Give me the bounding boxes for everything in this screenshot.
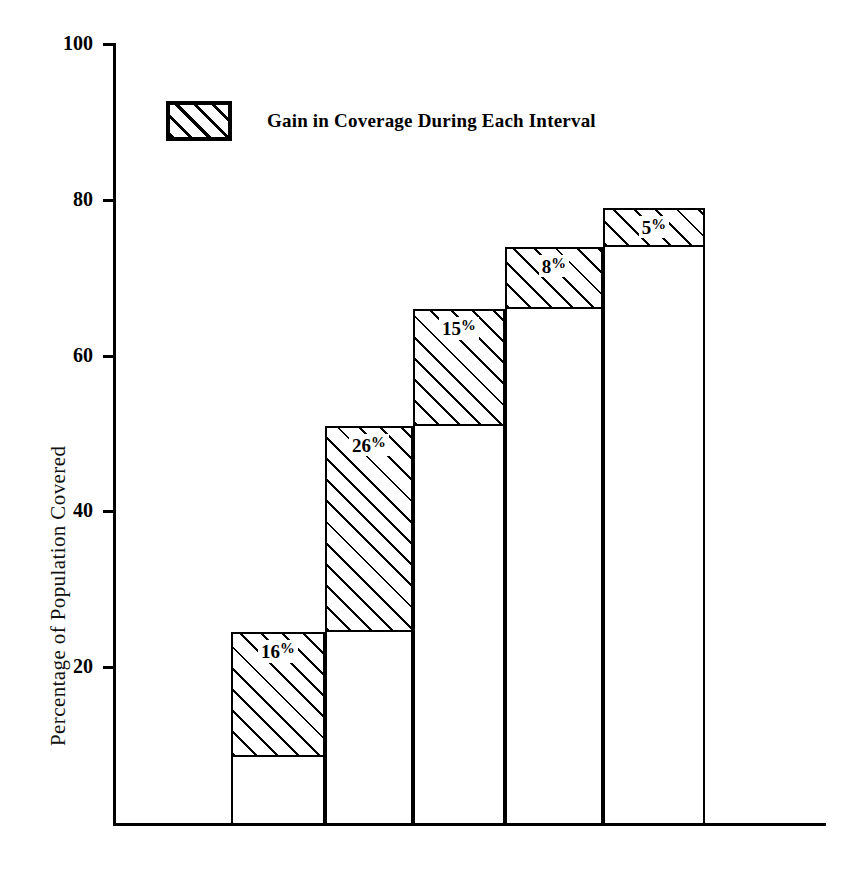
bar-gain-label: 8% [539,255,569,278]
y-axis-tick-label: 80 [73,188,93,211]
y-axis-tick-60: 60 [103,355,116,358]
bar-gain-label: 16% [258,640,298,663]
y-axis-tick-label: 60 [73,344,93,367]
legend-label: Gain in Coverage During Each Interval [267,110,596,132]
y-axis-tick-label: 20 [73,655,93,678]
bar-1960-64 [603,208,705,823]
y-axis-line [113,44,116,826]
y-axis-tick-20: 20 [103,666,116,669]
y-axis-tick-80: 80 [103,199,116,202]
bar-gain-segment-1960-64: 5% [603,208,705,247]
x-axis-line [113,823,826,826]
bar-gain-segment-1940-45: 16% [231,632,325,757]
y-axis-tick-label: 100 [63,32,93,55]
legend: Gain in Coverage During Each Interval [166,101,596,141]
y-axis-tick-label: 40 [73,499,93,522]
bar-gain-segment-1950-55: 15% [413,309,505,426]
y-axis-tick-100: 100 [103,43,116,46]
plot-area: 20406080100 16%26%15%8%5% 1940-451945-50… [113,44,813,823]
chart-page: Percentage of Population Covered 2040608… [0,0,844,877]
bar-1955-60 [505,247,603,823]
bar-gain-label: 5% [639,216,669,239]
bar-gain-segment-1945-50: 26% [325,426,413,632]
legend-hatch-swatch-icon [166,101,232,141]
y-axis-title: Percentage of Population Covered [46,46,80,746]
y-axis-tick-40: 40 [103,510,116,513]
bar-gain-segment-1955-60: 8% [505,247,603,309]
bar-gain-label: 15% [439,317,479,340]
bar-gain-label: 26% [349,434,389,457]
